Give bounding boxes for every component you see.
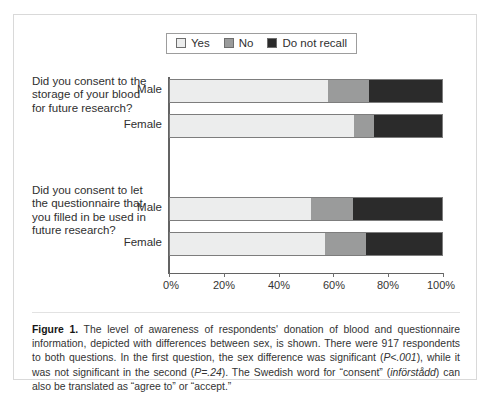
bar-segment-no	[354, 114, 375, 138]
bar-segment-do-not-recall	[366, 232, 443, 256]
bar-q2-male	[169, 197, 443, 221]
x-tick-label-60: 60%	[323, 279, 345, 291]
bar-segment-no	[311, 197, 352, 221]
x-tick-label-20: 20%	[213, 279, 235, 291]
x-tick-mark-0	[169, 273, 170, 277]
x-tick-label-40: 40%	[268, 279, 290, 291]
x-tick-mark-40	[279, 273, 280, 277]
question-1-text: Did you consent to the storage of your b…	[32, 75, 150, 115]
category-label-q2-male: Male	[102, 201, 162, 213]
category-label-q1-male: Male	[102, 83, 162, 95]
x-tick-label-100: 100%	[427, 279, 455, 291]
caption-divider	[32, 312, 460, 313]
category-label-q2-female: Female	[102, 236, 162, 248]
bar-segment-no	[325, 232, 366, 256]
figure-panel: Yes No Do not recall 0% 20% 40% 60% 80% …	[13, 14, 477, 380]
bar-segment-yes	[169, 114, 354, 138]
x-tick-mark-80	[388, 273, 389, 277]
bar-segment-do-not-recall	[353, 197, 443, 221]
figure-caption: Figure 1. The level of awareness of resp…	[32, 323, 460, 394]
bar-q1-male	[169, 79, 443, 103]
bar-q2-female	[169, 232, 443, 256]
caption-figure-label: Figure 1.	[32, 324, 78, 335]
caption-part-3: ). The Swedish word for “consent” (	[222, 367, 390, 378]
chart-plot-area: 0% 20% 40% 60% 80% 100% Did you consent …	[14, 15, 478, 305]
category-label-q1-female: Female	[102, 118, 162, 130]
x-tick-mark-100	[443, 273, 444, 277]
bar-segment-no	[328, 79, 369, 103]
bar-segment-yes	[169, 197, 311, 221]
caption-stat-1: P<.001	[383, 352, 416, 363]
bar-segment-yes	[169, 232, 325, 256]
bar-segment-do-not-recall	[374, 114, 443, 138]
x-tick-mark-60	[333, 273, 334, 277]
bar-q1-female	[169, 114, 443, 138]
x-tick-label-0: 0%	[163, 279, 179, 291]
caption-stat-2: P=.24	[194, 367, 221, 378]
bar-segment-do-not-recall	[369, 79, 443, 103]
x-tick-label-80: 80%	[377, 279, 399, 291]
bar-segment-yes	[169, 79, 328, 103]
caption-swedish-word: införstådd	[390, 367, 436, 378]
x-axis-line	[168, 273, 443, 274]
x-tick-mark-20	[224, 273, 225, 277]
